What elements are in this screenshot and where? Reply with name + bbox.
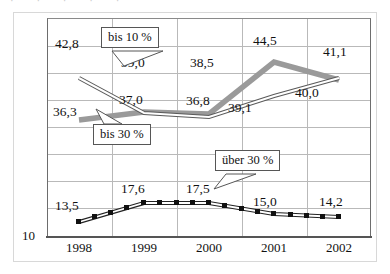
- data-label-39-1: 39,1: [228, 100, 252, 116]
- callout-bis-10[interactable]: bis 10 %: [101, 27, 159, 48]
- data-label-17-6: 17,6: [121, 181, 145, 197]
- data-label-42-8: 42,8: [55, 36, 79, 52]
- data-label-38-5: 38,5: [190, 55, 214, 71]
- data-label-17-5: 17,5: [186, 181, 210, 197]
- data-label-44-5: 44,5: [253, 33, 277, 49]
- series-line-ueber-30-outline: [79, 203, 339, 222]
- data-label-15-0: 15,0: [253, 194, 277, 210]
- data-label-40-0: 40,0: [295, 85, 319, 101]
- data-label-37-0: 37,0: [119, 92, 143, 108]
- data-label-41-1: 41,1: [323, 44, 347, 60]
- data-label-13-5: 13,5: [55, 198, 79, 214]
- data-label-14-2: 14,2: [319, 194, 343, 210]
- data-label-36-8: 36,8: [186, 93, 210, 109]
- data-label-36-3: 36,3: [53, 104, 77, 120]
- data-label-39-0: 39,0: [121, 55, 145, 71]
- callout-ueber-30[interactable]: über 30 %: [215, 150, 280, 171]
- callout-bis-30[interactable]: bis 30 %: [93, 124, 151, 145]
- chart-root: · · · · · 10 1998 1999 2000 2001 2002: [0, 0, 390, 274]
